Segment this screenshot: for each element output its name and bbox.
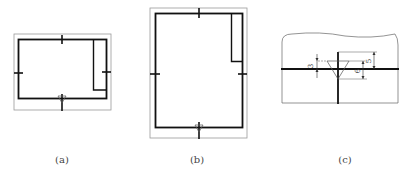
caption-a: (a) (42, 154, 82, 165)
caption-c: (c) (325, 154, 365, 165)
panel-b-drawing (150, 8, 247, 139)
panel-c-detail: 3 5 6 (281, 33, 399, 104)
title-block (94, 40, 107, 91)
dim-label-6: 6 (354, 68, 362, 73)
panel-a-drawing (14, 34, 111, 111)
dim-label-5: 5 (365, 59, 373, 63)
title-block (232, 14, 243, 62)
sheet-edge (150, 8, 247, 138)
border-frame (156, 14, 243, 128)
break-outline (282, 33, 398, 103)
dim-label-3: 3 (307, 64, 315, 68)
caption-b: (b) (177, 154, 217, 165)
